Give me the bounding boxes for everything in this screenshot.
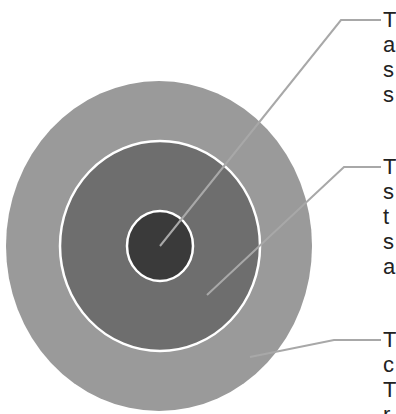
label-inner-line: s	[383, 57, 396, 82]
label-middle-line: s	[383, 179, 396, 204]
label-inner: T a s s	[383, 7, 396, 107]
label-inner-line: s	[383, 82, 396, 107]
label-outer: T c T r	[383, 327, 396, 414]
label-middle-line: a	[383, 254, 396, 279]
label-outer-line: T	[383, 377, 396, 402]
label-middle-line: T	[383, 154, 396, 179]
label-middle: T s t s a	[383, 154, 396, 279]
label-outer-line: r	[383, 402, 396, 414]
label-middle-line: s	[383, 229, 396, 254]
label-inner-line: T	[383, 7, 396, 32]
diagram-canvas	[0, 0, 396, 414]
label-outer-line: T	[383, 327, 396, 352]
label-outer-line: c	[383, 352, 396, 377]
label-inner-line: a	[383, 32, 396, 57]
label-middle-line: t	[383, 204, 396, 229]
concentric-diagram: T a s s T s t s a T c T r	[0, 0, 396, 414]
